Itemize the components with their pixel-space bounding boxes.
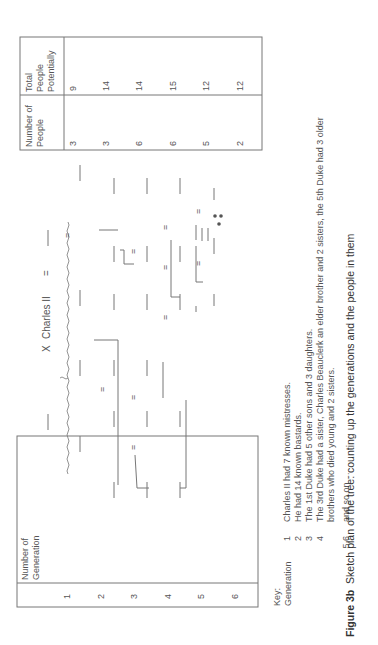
- people-cell: 3: [101, 141, 112, 146]
- marriage-symbol: =: [160, 265, 171, 270]
- marriage-symbol: =: [128, 249, 139, 254]
- total-cell: 14: [101, 81, 112, 91]
- marriage-symbol: =: [41, 270, 52, 276]
- marriage-symbol: =: [97, 387, 108, 392]
- marriage-symbol: =: [128, 445, 139, 450]
- marriage-symbol: =: [62, 233, 73, 238]
- generation-table-header: Number of Generation: [20, 535, 42, 580]
- people-cell: 6: [168, 141, 179, 146]
- total-column-header: Total People Potentially: [24, 50, 57, 92]
- people-cell: 2: [235, 141, 246, 146]
- generation-row: 4: [163, 594, 174, 599]
- total-cell: 12: [235, 81, 246, 91]
- generation-table-border: [17, 436, 258, 607]
- generation-row: 6: [230, 594, 241, 599]
- total-cell: 12: [201, 81, 212, 91]
- root-cross: X: [41, 345, 52, 352]
- generation-row: 5: [196, 594, 207, 599]
- marriage-symbol: =: [193, 261, 204, 266]
- people-column-header: Number of People: [24, 105, 46, 147]
- marriage-symbol: =: [160, 315, 171, 320]
- figure-label: Figure 3b: [344, 590, 356, 637]
- root-label: Charles II: [41, 296, 52, 339]
- key-list: 1Charles II had 7 known mistresses. 2He …: [282, 117, 352, 554]
- generation-row: 3: [129, 594, 140, 599]
- people-cell: 6: [134, 141, 145, 146]
- total-cell: 15: [168, 81, 179, 91]
- generation-row: 2: [96, 594, 107, 599]
- key-item: 2He had 14 known bastards.: [293, 117, 304, 554]
- total-cell: 9: [68, 86, 79, 91]
- figure-caption-text: Sketch plan of the tree: counting up the…: [344, 234, 356, 584]
- marriage-symbol: =: [128, 395, 139, 400]
- descendants-icon: [196, 214, 223, 241]
- key-title: Key: Generation: [272, 561, 294, 606]
- total-cell: 14: [134, 81, 145, 91]
- key-item: 1Charles II had 7 known mistresses.: [282, 117, 293, 554]
- marriage-symbol: =: [193, 209, 204, 214]
- key-item: brothers who died young and 2 sisters.: [326, 117, 337, 554]
- key-item: 4The 3rd Duke had a sister, Charles Beau…: [315, 117, 326, 554]
- marriage-symbol: =: [160, 225, 171, 230]
- figure-caption: Figure 3b Sketch plan of the tree: count…: [344, 234, 356, 637]
- key-item: 3The 1st Duke had 5 other sons and 3 dau…: [304, 117, 315, 554]
- people-cell: 3: [68, 141, 79, 146]
- generation-row: 1: [62, 594, 73, 599]
- people-cell: 5: [201, 141, 212, 146]
